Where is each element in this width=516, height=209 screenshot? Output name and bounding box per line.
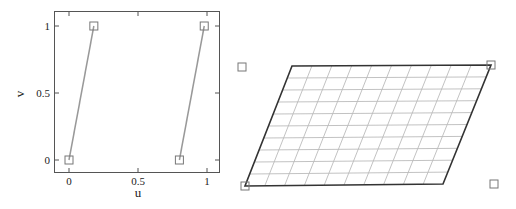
mesh-diagram	[0, 0, 516, 209]
control-point-square	[490, 180, 498, 188]
control-point-square	[238, 63, 246, 71]
